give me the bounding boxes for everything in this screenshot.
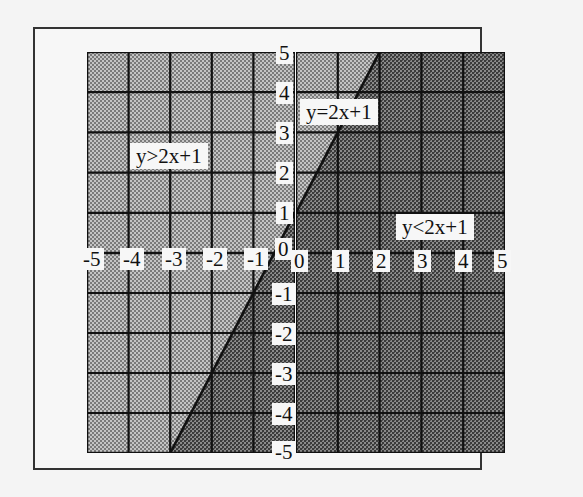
y-tick-label: -4	[272, 403, 296, 425]
region-label-above: y>2x+1	[130, 143, 208, 169]
origin-label: 0	[275, 238, 292, 260]
y-tick-label: -2	[272, 323, 296, 345]
quadrant-bottom-left	[87, 253, 295, 454]
y-tick-label: 4	[276, 82, 293, 104]
y-tick-label: -1	[272, 283, 296, 305]
x-tick-label: 0	[291, 250, 308, 272]
x-tick-label: -3	[162, 248, 186, 270]
x-tick-label: -1	[244, 248, 268, 270]
x-tick-label: 1	[332, 250, 349, 272]
x-tick-label: 4	[455, 250, 472, 272]
y-tick-label: 3	[276, 122, 293, 144]
region-label-below: y<2x+1	[396, 214, 474, 240]
y-tick-label: 1	[276, 202, 293, 224]
x-tick-label: -4	[120, 248, 144, 270]
x-tick-label: -2	[203, 248, 227, 270]
x-tick-label: 3	[414, 250, 431, 272]
y-tick-label: 5	[276, 42, 293, 64]
y-tick-label: -5	[272, 441, 296, 463]
quadrant-bottom-right	[296, 253, 505, 453]
y-tick-label: 2	[276, 162, 293, 184]
x-tick-label: 2	[373, 250, 390, 272]
region-below-line	[296, 253, 505, 453]
y-tick-label: -3	[272, 363, 296, 385]
x-tick-label: -5	[80, 248, 104, 270]
line-label: y=2x+1	[300, 99, 378, 125]
x-tick-label: 5	[494, 250, 511, 272]
